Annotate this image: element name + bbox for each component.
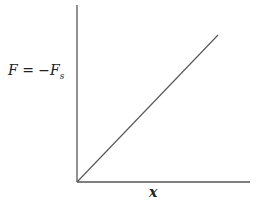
y-label-eq: = − [18,62,50,78]
plot-area [0,0,262,212]
y-label-sub: s [60,71,65,81]
force-line [77,35,218,182]
y-label-rhs: F [50,62,60,78]
y-label-lhs: F [8,62,18,78]
force-displacement-diagram: F = −Fs x [0,0,262,212]
y-axis-label: F = −Fs [8,62,64,81]
x-axis-label: x [149,184,157,200]
